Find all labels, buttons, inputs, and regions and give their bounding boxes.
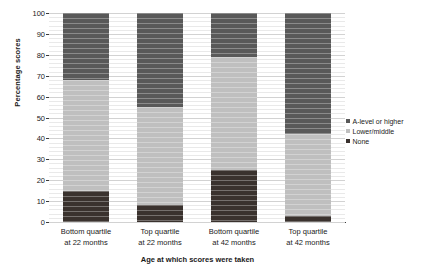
y-tick-label: 0 <box>19 218 45 227</box>
legend-item[interactable]: None <box>346 136 403 146</box>
bar-stack <box>63 13 109 222</box>
y-tick-mark <box>46 97 49 98</box>
y-tick-label: 30 <box>19 155 45 164</box>
bar-segment <box>63 80 109 191</box>
y-tick-mark <box>46 13 49 14</box>
y-tick-label: 60 <box>19 92 45 101</box>
bar-segment <box>63 13 109 80</box>
bar-segment <box>211 170 257 222</box>
bar-segment <box>285 216 331 222</box>
legend-item[interactable]: Lower/middle <box>346 126 403 136</box>
y-tick-label: 10 <box>19 197 45 206</box>
legend-swatch-icon <box>346 139 350 143</box>
bar-stack <box>211 13 257 222</box>
y-tick-mark <box>46 201 49 202</box>
y-tick-mark <box>46 76 49 77</box>
x-axis-title: Age at which scores were taken <box>49 255 346 264</box>
y-tick-mark <box>46 159 49 160</box>
y-tick-mark <box>46 34 49 35</box>
bar-segment <box>137 107 183 205</box>
bar-segment <box>211 57 257 170</box>
chart-legend: A-level or higherLower/middleNone <box>346 116 403 146</box>
legend-swatch-icon <box>346 119 350 123</box>
bar-segment <box>285 13 331 134</box>
bar-segment <box>285 134 331 216</box>
bar-segment <box>137 205 183 222</box>
y-tick-mark <box>46 222 49 223</box>
gridline-major <box>49 222 345 223</box>
y-tick-label: 80 <box>19 50 45 59</box>
legend-label: A-level or higher <box>353 118 404 125</box>
legend-swatch-icon <box>346 129 350 133</box>
bar-segment <box>211 13 257 57</box>
x-tick-label: Top quartileat 42 months <box>262 227 354 248</box>
plot-area: 0102030405060708090100 <box>49 13 345 222</box>
y-tick-mark <box>46 138 49 139</box>
y-tick-label: 50 <box>19 113 45 122</box>
legend-label: Lower/middle <box>353 128 395 135</box>
y-tick-mark <box>46 118 49 119</box>
y-tick-mark <box>46 55 49 56</box>
y-tick-label: 70 <box>19 71 45 80</box>
x-tick-label-line: at 42 months <box>262 238 354 249</box>
y-tick-label: 90 <box>19 29 45 38</box>
y-tick-label: 20 <box>19 176 45 185</box>
chart-container: Percentage scores 0102030405060708090100… <box>0 0 430 276</box>
bar-segment <box>137 13 183 107</box>
y-tick-label: 40 <box>19 134 45 143</box>
bar-stack <box>285 13 331 222</box>
bar-stack <box>137 13 183 222</box>
legend-item[interactable]: A-level or higher <box>346 116 403 126</box>
legend-label: None <box>353 138 370 145</box>
x-tick-label-line: Top quartile <box>262 227 354 238</box>
bar-segment <box>63 191 109 222</box>
y-tick-mark <box>46 180 49 181</box>
y-tick-label: 100 <box>19 9 45 18</box>
